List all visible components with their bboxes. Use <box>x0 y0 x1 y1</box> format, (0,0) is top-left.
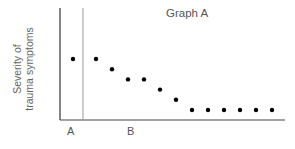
data-point <box>94 57 98 61</box>
single-case-design-chart <box>0 0 295 149</box>
phase-label-b: B <box>127 125 134 137</box>
data-point <box>110 67 114 71</box>
data-point <box>174 98 178 102</box>
data-points <box>71 57 274 112</box>
data-point <box>126 77 130 81</box>
data-point <box>158 87 162 91</box>
y-axis-label-line-2: trauma symptoms <box>23 9 35 129</box>
data-point <box>206 108 210 112</box>
data-point <box>190 108 194 112</box>
data-point <box>238 108 242 112</box>
data-point <box>270 108 274 112</box>
chart-title: Graph A <box>166 7 208 19</box>
phase-label-a: A <box>67 125 74 137</box>
y-axis-label: Severity of trauma symptoms <box>11 9 35 129</box>
data-point <box>142 77 146 81</box>
data-point <box>71 57 75 61</box>
data-point <box>222 108 226 112</box>
data-point <box>254 108 258 112</box>
y-axis-label-line-1: Severity of <box>11 9 23 129</box>
